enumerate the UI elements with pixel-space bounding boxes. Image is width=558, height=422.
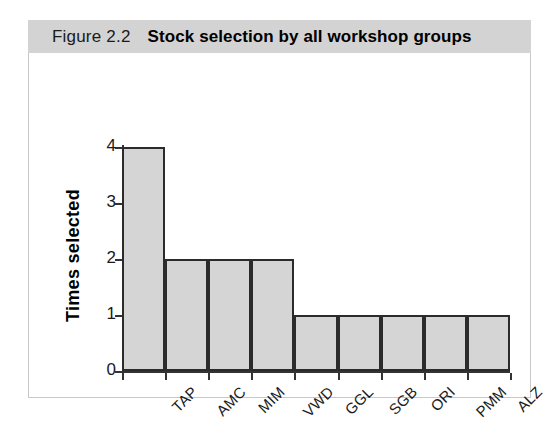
- x-tick-mark: [122, 373, 124, 380]
- x-tick-label-amc: AMC: [212, 383, 248, 419]
- y-axis-title-label: Times selected: [63, 189, 84, 322]
- y-tick-label: 4: [96, 136, 116, 156]
- x-tick-mark: [510, 373, 512, 380]
- figure-container: Figure 2.2 Stock selection by all worksh…: [28, 20, 531, 398]
- x-tick-mark: [381, 373, 383, 380]
- x-tick-mark: [424, 373, 426, 380]
- bar-sgb[interactable]: [338, 315, 381, 371]
- x-tick-label-pmm: PMM: [472, 383, 509, 420]
- x-tick-label-ggl: GGL: [341, 383, 376, 418]
- y-axis-title: Times selected: [62, 158, 84, 353]
- bar-tap[interactable]: [122, 147, 165, 371]
- y-tick-label: 2: [96, 248, 116, 268]
- bar-ggl[interactable]: [294, 315, 338, 371]
- x-tick-label-alz: ALZ: [513, 383, 545, 415]
- x-tick-mark: [467, 373, 469, 380]
- bar-amc[interactable]: [165, 259, 208, 371]
- y-tick-label: 1: [96, 304, 116, 324]
- bar-ori[interactable]: [381, 315, 424, 371]
- figure-number: Figure 2.2: [52, 27, 131, 47]
- x-tick-mark: [338, 373, 340, 380]
- plot-area: 01234 TAPAMCMIMVWDGGLSGBORIPMMALZ: [122, 145, 510, 373]
- x-tick-mark: [165, 373, 167, 380]
- x-tick-label-ori: ORI: [426, 383, 457, 414]
- x-tick-label-mim: MIM: [254, 383, 287, 416]
- figure-caption: Stock selection by all workshop groups: [148, 27, 472, 47]
- x-tick-mark: [294, 373, 296, 380]
- figure-title-bar: Figure 2.2 Stock selection by all worksh…: [28, 20, 531, 53]
- bar-alz[interactable]: [467, 315, 510, 371]
- y-tick-label: 3: [96, 192, 116, 212]
- x-axis-line: [122, 371, 510, 373]
- y-tick-label: 0: [96, 360, 116, 380]
- x-tick-label-tap: TAP: [168, 383, 200, 415]
- x-tick-mark: [251, 373, 253, 380]
- x-tick-label-sgb: SGB: [385, 383, 420, 418]
- x-tick-label-vwd: VWD: [299, 383, 336, 420]
- x-tick-mark: [208, 373, 210, 380]
- bar-pmm[interactable]: [424, 315, 467, 371]
- bar-mim[interactable]: [208, 259, 251, 371]
- bar-vwd[interactable]: [251, 259, 294, 371]
- chart-panel: Times selected 01234 TAPAMCMIMVWDGGLSGBO…: [28, 53, 531, 398]
